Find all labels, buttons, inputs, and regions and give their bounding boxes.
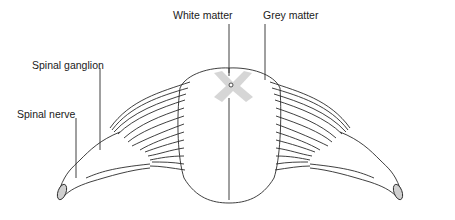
label-spinal-nerve: Spinal nerve <box>17 108 75 120</box>
central-canal <box>229 83 233 87</box>
label-grey-matter: Grey matter <box>263 9 318 21</box>
label-white-matter: White matter <box>173 9 233 21</box>
grey-matter-shape <box>214 71 253 102</box>
spinal-cord-diagram: White matter Grey matter Spinal ganglion… <box>0 0 455 220</box>
label-spinal-ganglion: Spinal ganglion <box>32 59 104 71</box>
left-spinal-nerve <box>56 132 150 201</box>
left-nerve-roots <box>110 82 190 170</box>
right-nerve-roots <box>270 82 350 170</box>
right-spinal-nerve <box>310 132 404 201</box>
